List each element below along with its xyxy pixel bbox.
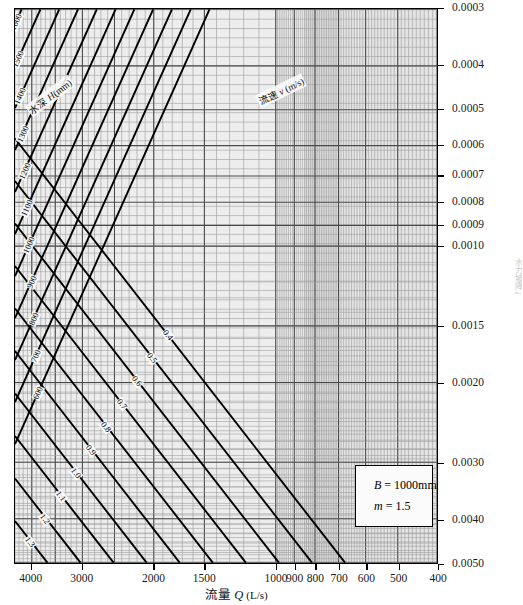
x-tick-label: 2000 (142, 572, 165, 584)
x-tick-label: 600 (358, 572, 375, 584)
legend-line-m: m = 1.5 (374, 496, 410, 517)
y-tick-mark (438, 8, 444, 9)
x-tick-label: 700 (330, 572, 347, 584)
x-tick-mark (82, 564, 83, 570)
y-tick-mark (438, 109, 444, 110)
x-tick-mark (339, 564, 340, 570)
nomograph-figure: 水深 H(mm) 流速 v (m/s) 16001500140013001200… (0, 0, 523, 605)
y-tick-mark (438, 383, 444, 384)
y-tick-label: 0.0020 (452, 376, 484, 388)
y-tick-label: 0.0009 (452, 218, 484, 230)
x-tick-mark (295, 564, 296, 570)
y-tick-label: 0.0040 (452, 513, 484, 525)
x-tick-mark (438, 564, 439, 570)
y-tick-label: 0.0006 (452, 138, 484, 150)
x-tick-mark (31, 564, 32, 570)
x-tick-label: 800 (307, 572, 324, 584)
x-tick-label: 3000 (70, 572, 93, 584)
y-tick-label: 0.0007 (452, 168, 484, 180)
y-tick-label: 0.0015 (452, 319, 484, 331)
x-tick-mark (204, 564, 205, 570)
y-tick-label: 0.0050 (452, 557, 484, 569)
y-tick-mark (438, 463, 444, 464)
y-tick-mark (438, 145, 444, 146)
x-tick-mark (399, 564, 400, 570)
y-tick-label: 0.0004 (452, 58, 484, 70)
x-tick-label: 4000 (19, 572, 42, 584)
x-axis-title: 流量 Q (L/s) (205, 584, 268, 603)
y-tick-label: 0.0005 (452, 102, 484, 114)
x-tick-label: 900 (286, 572, 303, 584)
y-tick-mark (438, 202, 444, 203)
y-tick-mark (438, 175, 444, 176)
y-tick-label: 0.0003 (452, 1, 484, 13)
y-tick-mark (438, 326, 444, 327)
x-tick-mark (315, 564, 316, 570)
x-tick-mark (366, 564, 367, 570)
x-tick-mark (276, 564, 277, 570)
x-tick-label: 1000 (264, 572, 287, 584)
y-tick-label: 0.0010 (452, 239, 484, 251)
y-tick-mark (438, 225, 444, 226)
x-tick-label: 400 (429, 572, 446, 584)
y-tick-mark (438, 246, 444, 247)
y-tick-label: 0.0008 (452, 195, 484, 207)
y-tick-mark (438, 520, 444, 521)
x-tick-label: 500 (390, 572, 407, 584)
y-tick-mark (438, 65, 444, 66)
parameter-legend-box: B = 1000mm m = 1.5 (355, 465, 433, 527)
legend-line-B: B = 1000mm (374, 475, 437, 496)
y-tick-label: 0.0030 (452, 456, 484, 468)
plot-area: 水深 H(mm) 流速 v (m/s) 16001500140013001200… (14, 8, 438, 564)
x-tick-label: 1500 (193, 572, 216, 584)
x-tick-mark (153, 564, 154, 570)
y-axis-title: 水力坡降 i (512, 258, 523, 294)
